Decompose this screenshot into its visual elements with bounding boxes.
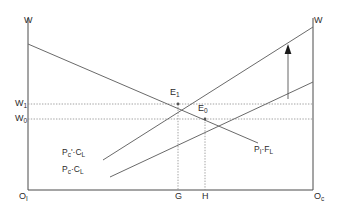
economics-labor-market-diagram [0, 0, 344, 212]
y-tick-w0-sub: 0 [24, 117, 28, 124]
origin-label-left: OI [19, 192, 28, 201]
curve-pc-prime-cl [103, 27, 313, 160]
curve-pc-cl [110, 82, 313, 177]
curve-label-pc-cl: Pc·CL [62, 165, 84, 174]
shift-arrow-head [285, 44, 292, 54]
y-tick-w0-base: W [15, 113, 24, 123]
equilibrium-e0-sub: 0 [204, 107, 208, 114]
curve-pc-prime-base2: C [75, 147, 81, 157]
curve-label-pc-prime-cl: Pc'·CL [62, 148, 85, 157]
equilibrium-label-e0: E0 [198, 104, 208, 113]
y-tick-w1-base: W [15, 98, 24, 108]
equilibrium-point-e0 [204, 118, 207, 121]
curve-pi-base2: F [264, 144, 269, 154]
curve-pc-prime-sub2: L [82, 151, 86, 158]
origin-left-sub: I [26, 195, 28, 202]
curve-pc-sub: c [68, 168, 71, 175]
curve-pc-base2: C [74, 164, 80, 174]
curve-pi-sub2: L [270, 148, 274, 155]
equilibrium-e1-sub: 1 [176, 91, 180, 98]
y-tick-w1-sub: 1 [24, 102, 28, 109]
origin-right-sub: c [321, 195, 324, 202]
right-axis-top-label: W [314, 16, 323, 25]
curve-label-pi-fl: PI·FL [254, 145, 273, 154]
curve-pi-fl [28, 44, 258, 143]
curve-pc-base: P [62, 164, 68, 174]
x-tick-label-g: G [175, 192, 182, 201]
curve-pi-base: P [254, 144, 260, 154]
origin-label-right: Oc [314, 192, 324, 201]
curve-pc-prime-base: P [62, 147, 68, 157]
y-tick-label-w1: W1 [15, 99, 27, 108]
x-tick-label-h: H [202, 192, 209, 201]
diagram-canvas: W W W1 W0 G H OI Oc E1 E0 Pc'·CL Pc·CL P… [0, 0, 344, 212]
equilibrium-point-e1 [177, 103, 180, 106]
curve-pc-sub2: L [80, 168, 84, 175]
curve-pc-prime-sub: c [68, 151, 71, 158]
origin-left-base: O [19, 191, 26, 201]
y-tick-label-w0: W0 [15, 114, 27, 123]
origin-right-base: O [314, 191, 321, 201]
equilibrium-label-e1: E1 [170, 88, 180, 97]
left-axis-top-label: W [24, 16, 33, 25]
